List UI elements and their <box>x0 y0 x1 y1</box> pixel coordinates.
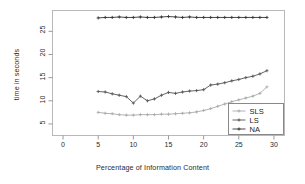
x-axis-title: Percentage of Information Content <box>0 163 305 172</box>
y-tick-label: 5 <box>39 112 46 132</box>
y-tick-label: 20 <box>39 43 46 63</box>
line-chart-canvas <box>0 0 305 184</box>
y-tick-label: 15 <box>39 66 46 86</box>
legend-label-ls: LS <box>250 116 259 125</box>
x-tick-label: 0 <box>53 141 73 148</box>
chart-figure: Percentage of Information Content time i… <box>0 0 305 184</box>
legend-label-sls: SLS <box>250 107 264 116</box>
y-axis-title: time in seconds <box>12 15 21 135</box>
legend-label-na: NA <box>250 125 260 134</box>
y-tick-label: 25 <box>39 20 46 40</box>
x-tick-label: 30 <box>264 141 284 148</box>
x-tick-label: 10 <box>123 141 143 148</box>
x-tick-label: 5 <box>88 141 108 148</box>
y-tick-label: 10 <box>39 89 46 109</box>
x-tick-label: 20 <box>194 141 214 148</box>
x-tick-label: 25 <box>229 141 249 148</box>
x-tick-label: 15 <box>159 141 179 148</box>
